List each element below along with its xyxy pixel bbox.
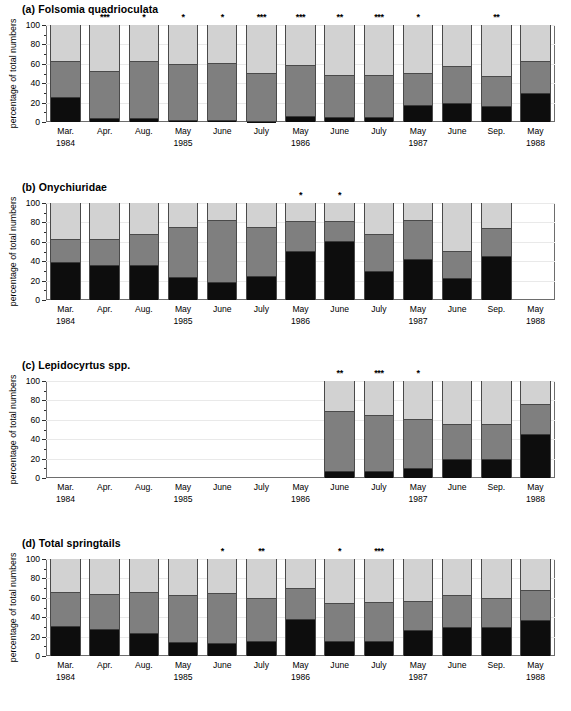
y-tick-label: 60 [30, 416, 40, 425]
bar-segment-bottom [130, 634, 159, 656]
x-axis-label: May1985 [163, 482, 202, 505]
bar-segment-bottom [51, 98, 80, 122]
x-label-month: June [213, 660, 232, 670]
bar-cell: * [320, 203, 359, 300]
bar-cell: * [124, 25, 163, 122]
x-label-month: May [527, 660, 543, 670]
bar-segment-top [208, 203, 237, 221]
x-label-year: 1988 [516, 672, 555, 684]
bar-segment-middle [443, 596, 472, 628]
bar-segment-top [482, 381, 511, 425]
x-axis-label: July [242, 660, 281, 683]
x-label-month: June [448, 660, 467, 670]
bar-segment-middle [130, 235, 159, 267]
x-axis-label: June [438, 304, 477, 327]
bar-cell [477, 559, 516, 656]
bar-cell [281, 381, 320, 478]
bar-segment-top [130, 559, 159, 593]
stacked-bar [520, 559, 551, 656]
x-label-month: June [448, 304, 467, 314]
bar-segment-top [325, 203, 354, 222]
y-tick-label: 60 [30, 594, 40, 603]
x-label-month: Mar. [57, 660, 74, 670]
bar-cell [516, 559, 555, 656]
y-tick-label: 40 [30, 435, 40, 444]
stacked-bar [168, 203, 199, 300]
stacked-bar [207, 203, 238, 300]
bar-segment-middle [521, 405, 550, 436]
bar-cell [438, 25, 477, 122]
bar-segment-bottom [325, 472, 354, 478]
x-label-month: May [527, 304, 543, 314]
x-label-month: Mar. [57, 304, 74, 314]
y-tick-label: 40 [30, 613, 40, 622]
x-label-month: June [213, 482, 232, 492]
bar-segment-bottom [482, 107, 511, 122]
bar-segment-bottom [482, 628, 511, 656]
bar-cell [46, 559, 85, 656]
bar-cell: * [398, 381, 437, 478]
bar-segment-middle [404, 602, 433, 631]
significance-marker: * [404, 369, 433, 381]
bar-cell [46, 381, 85, 478]
bar-segment-top [365, 203, 394, 235]
bar-cell [124, 381, 163, 478]
x-axis-label: Mar.1984 [46, 304, 85, 327]
bar-cell [163, 203, 202, 300]
bar-segment-bottom [169, 643, 198, 656]
bar-segment-middle [286, 222, 315, 252]
x-label-month: May [410, 304, 426, 314]
bar-segment-bottom [325, 642, 354, 656]
bar-segment-top [286, 203, 315, 222]
x-label-month: July [254, 126, 269, 136]
bar-cell [477, 203, 516, 300]
x-label-month: Sep. [487, 304, 505, 314]
bar-segment-bottom [482, 460, 511, 478]
bar-segment-bottom [51, 263, 80, 300]
bar-cell: *** [359, 381, 398, 478]
bar-segment-middle [286, 66, 315, 117]
x-axis-label: May1987 [398, 482, 437, 505]
stacked-bar [520, 203, 551, 300]
bar-segment-middle [404, 74, 433, 106]
x-label-month: May [410, 482, 426, 492]
bar-segment-top [404, 25, 433, 74]
stacked-bar [442, 203, 473, 300]
bar-cell [516, 381, 555, 478]
x-label-year: 1985 [163, 672, 202, 684]
bar-segment-middle [90, 595, 119, 630]
x-label-month: Apr. [97, 126, 112, 136]
significance-marker: *** [365, 547, 394, 559]
significance-marker: * [286, 191, 315, 203]
x-axis-label: May1986 [281, 126, 320, 149]
bar-segment-top [521, 381, 550, 405]
plot-area-c: ****** [46, 381, 555, 478]
bar-segment-top [90, 25, 119, 72]
significance-marker: * [169, 13, 198, 25]
bar-segment-bottom [169, 278, 198, 300]
x-axis-label: June [203, 482, 242, 505]
bar-segment-middle [482, 599, 511, 628]
significance-marker: * [325, 191, 354, 203]
stacked-bar: * [129, 25, 160, 122]
bar-segment-top [521, 559, 550, 591]
x-axis-label: June [320, 126, 359, 149]
bar-segment-bottom [365, 642, 394, 656]
x-axis-label: May1985 [163, 126, 202, 149]
bar-segment-top [521, 25, 550, 62]
bar-segment-bottom [404, 631, 433, 656]
bar-segment-bottom [404, 260, 433, 300]
x-axis-label: July [359, 304, 398, 327]
bar-segment-bottom [443, 460, 472, 478]
x-axis-label: July [242, 482, 281, 505]
bar-segment-middle [169, 228, 198, 278]
bar-segment-bottom [404, 106, 433, 122]
x-axis-label: May1986 [281, 660, 320, 683]
y-tick-label: 0 [35, 652, 40, 661]
bar-cell: * [281, 203, 320, 300]
bar-cell [438, 203, 477, 300]
bar-segment-middle [365, 76, 394, 118]
bar-cell: *** [281, 25, 320, 122]
bar-segment-bottom [90, 630, 119, 656]
bar-segment-bottom [443, 628, 472, 656]
